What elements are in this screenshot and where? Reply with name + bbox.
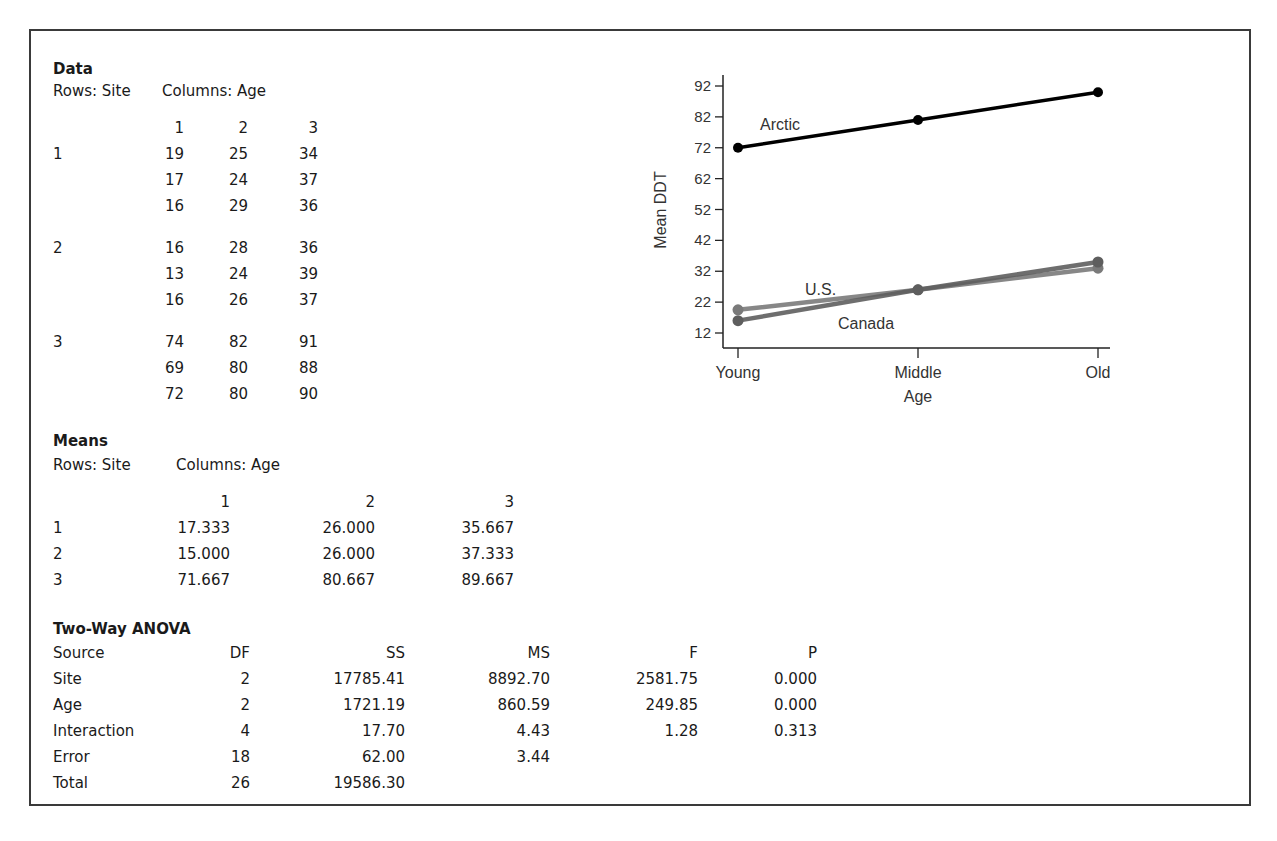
svg-text:82: 82 (694, 108, 711, 125)
data-cols-label: Columns: Age (162, 82, 266, 100)
svg-text:Old: Old (1086, 364, 1111, 381)
anova-heading: Two-Way ANOVA (53, 620, 191, 638)
svg-text:52: 52 (694, 201, 711, 218)
data-site-label: 1 (53, 145, 63, 163)
data-site-label: 2 (53, 239, 63, 257)
anova-cell: 0.000 (720, 670, 817, 688)
data-cell: 24 (226, 265, 248, 283)
anova-cell: 2 (180, 670, 250, 688)
data-cell: 24 (226, 171, 248, 189)
means-col-header: 2 (295, 493, 375, 511)
means-cell: 26.000 (295, 519, 375, 537)
data-cell: 82 (226, 333, 248, 351)
svg-text:22: 22 (694, 293, 711, 310)
anova-cell: 1721.19 (290, 696, 405, 714)
data-col-header: 2 (226, 119, 248, 137)
means-cols-label: Columns: Age (176, 456, 280, 474)
svg-text:Young: Young (716, 364, 761, 381)
anova-cell: 4.43 (430, 722, 550, 740)
anova-cell: 17785.41 (290, 670, 405, 688)
anova-cell: 8892.70 (430, 670, 550, 688)
interaction-plot: 122232425262728292YoungMiddleOldAgeMean … (640, 70, 1120, 410)
svg-text:92: 92 (694, 77, 711, 94)
means-site-label: 2 (53, 545, 63, 563)
data-cell: 39 (296, 265, 318, 283)
anova-header-cell: F (580, 644, 698, 662)
data-cell: 36 (296, 239, 318, 257)
anova-cell: 249.85 (580, 696, 698, 714)
anova-cell: 4 (180, 722, 250, 740)
data-cell: 80 (226, 385, 248, 403)
data-cell: 37 (296, 171, 318, 189)
svg-text:72: 72 (694, 139, 711, 156)
anova-cell: 1.28 (580, 722, 698, 740)
data-cell: 72 (162, 385, 184, 403)
means-cell: 89.667 (434, 571, 514, 589)
anova-cell: 2 (180, 696, 250, 714)
means-cell: 15.000 (150, 545, 230, 563)
svg-text:32: 32 (694, 262, 711, 279)
anova-cell: Site (53, 670, 173, 688)
anova-cell: 19586.30 (290, 774, 405, 792)
anova-cell: Age (53, 696, 173, 714)
anova-cell: Total (53, 774, 173, 792)
anova-cell: 17.70 (290, 722, 405, 740)
data-cell: 29 (226, 197, 248, 215)
data-cell: 37 (296, 291, 318, 309)
svg-text:U.S.: U.S. (805, 281, 836, 298)
svg-text:Mean DDT: Mean DDT (652, 171, 669, 249)
data-rows-label: Rows: Site (53, 82, 131, 100)
means-cell: 26.000 (295, 545, 375, 563)
means-cell: 80.667 (295, 571, 375, 589)
anova-header-cell: DF (180, 644, 250, 662)
data-cell: 34 (296, 145, 318, 163)
data-cell: 16 (162, 291, 184, 309)
data-cell: 69 (162, 359, 184, 377)
data-col-header: 1 (162, 119, 184, 137)
svg-text:Arctic: Arctic (760, 116, 800, 133)
anova-cell: Error (53, 748, 173, 766)
anova-cell: 26 (180, 774, 250, 792)
data-cell: 90 (296, 385, 318, 403)
anova-cell: 3.44 (430, 748, 550, 766)
means-col-header: 1 (150, 493, 230, 511)
svg-text:62: 62 (694, 170, 711, 187)
data-cell: 88 (296, 359, 318, 377)
data-cell: 91 (296, 333, 318, 351)
means-rows-label: Rows: Site (53, 456, 131, 474)
means-site-label: 1 (53, 519, 63, 537)
data-cell: 25 (226, 145, 248, 163)
svg-text:Middle: Middle (894, 364, 941, 381)
data-cell: 17 (162, 171, 184, 189)
data-heading: Data (53, 60, 93, 78)
means-cell: 71.667 (150, 571, 230, 589)
data-cell: 26 (226, 291, 248, 309)
means-cell: 35.667 (434, 519, 514, 537)
data-cell: 28 (226, 239, 248, 257)
svg-text:42: 42 (694, 231, 711, 248)
data-cell: 74 (162, 333, 184, 351)
anova-header-cell: MS (430, 644, 550, 662)
anova-cell: 2581.75 (580, 670, 698, 688)
anova-cell: 62.00 (290, 748, 405, 766)
anova-cell: 0.313 (720, 722, 817, 740)
anova-header-cell: SS (290, 644, 405, 662)
data-col-header: 3 (296, 119, 318, 137)
data-cell: 13 (162, 265, 184, 283)
anova-cell: 0.000 (720, 696, 817, 714)
data-cell: 16 (162, 239, 184, 257)
svg-text:Canada: Canada (838, 315, 894, 332)
data-cell: 36 (296, 197, 318, 215)
data-cell: 80 (226, 359, 248, 377)
means-cell: 17.333 (150, 519, 230, 537)
means-col-header: 3 (434, 493, 514, 511)
means-cell: 37.333 (434, 545, 514, 563)
svg-text:Age: Age (904, 388, 933, 405)
data-cell: 16 (162, 197, 184, 215)
anova-header-cell: Source (53, 644, 173, 662)
anova-cell: 18 (180, 748, 250, 766)
anova-cell: Interaction (53, 722, 173, 740)
data-cell: 19 (162, 145, 184, 163)
anova-cell: 860.59 (430, 696, 550, 714)
svg-text:12: 12 (694, 324, 711, 341)
